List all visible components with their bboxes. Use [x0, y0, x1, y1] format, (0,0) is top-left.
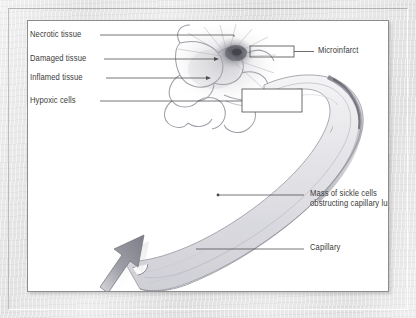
- label-inflamed-tissue: Inflamed tissue: [30, 73, 83, 83]
- figure-root: Necrotic tissue Damaged tissue Inflamed …: [0, 0, 416, 318]
- label-mass-of-sickle-cells-line2: obstructing capillary lumen: [310, 199, 389, 209]
- label-mass-of-sickle-cells-line1: Mass of sickle cells: [310, 189, 377, 199]
- label-necrotic-tissue: Necrotic tissue: [30, 30, 81, 40]
- label-microinfarct: Microinfarct: [318, 46, 358, 56]
- illustration-panel: Necrotic tissue Damaged tissue Inflamed …: [27, 20, 389, 292]
- hypoxic-cells-callout-box: [242, 89, 302, 112]
- label-damaged-tissue: Damaged tissue: [30, 54, 86, 64]
- label-hypoxic-cells: Hypoxic cells: [30, 96, 76, 106]
- label-capillary: Capillary: [310, 243, 340, 253]
- microinfarct-region: [165, 21, 282, 132]
